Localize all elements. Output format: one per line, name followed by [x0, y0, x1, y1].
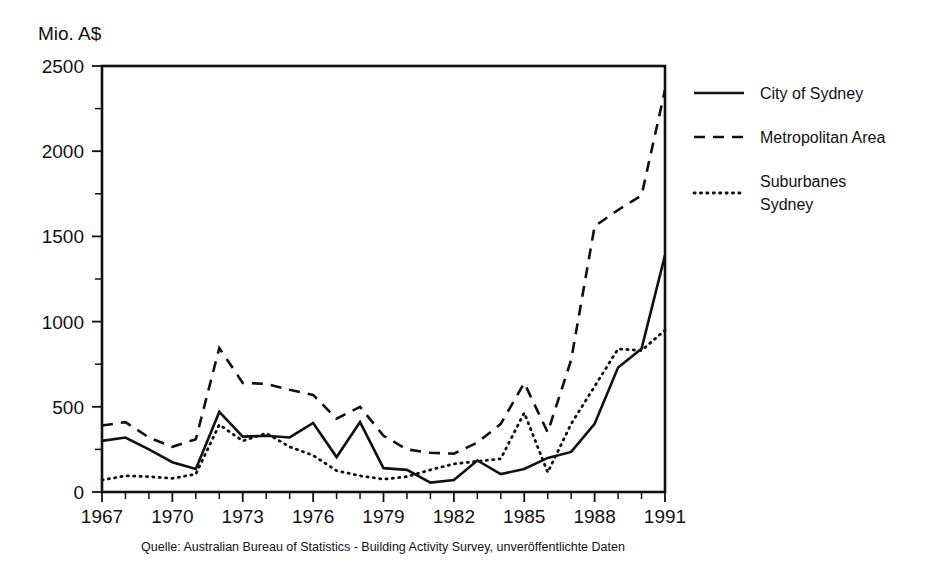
legend-label-suburbanes-sydney-line2: Sydney	[760, 196, 813, 213]
series-line-metropolitan-area	[102, 90, 665, 454]
series-line-city-of-sydney	[102, 255, 665, 482]
x-tick-label: 1979	[362, 506, 404, 527]
data-series-group	[102, 90, 665, 483]
y-tick-label: 1500	[42, 226, 84, 247]
source-note: Quelle: Australian Bureau of Statistics …	[141, 540, 625, 554]
x-tick-label: 1967	[81, 506, 123, 527]
y-tick-label: 1000	[42, 312, 84, 333]
x-tick-label: 1982	[433, 506, 475, 527]
series-line-suburbanes-sydney	[102, 330, 665, 480]
x-axis-ticks	[102, 492, 665, 502]
legend-item-city-of-sydney[interactable]: City of Sydney	[694, 85, 863, 102]
x-tick-label: 1988	[573, 506, 615, 527]
x-tick-label: 1985	[503, 506, 545, 527]
y-tick-label: 2000	[42, 141, 84, 162]
y-axis-title: Mio. A$	[38, 23, 102, 44]
legend-label-metropolitan-area: Metropolitan Area	[760, 129, 886, 146]
y-tick-label: 2500	[42, 56, 84, 77]
plot-frame	[102, 66, 665, 492]
legend-item-metropolitan-area[interactable]: Metropolitan Area	[694, 129, 886, 146]
y-axis-ticks	[92, 66, 102, 492]
legend-label-suburbanes-sydney-line1: Suburbanes	[760, 173, 846, 190]
y-axis-labels: 2500 2000 1500 1000 500 0	[42, 56, 84, 503]
legend-label-city-of-sydney: City of Sydney	[760, 85, 863, 102]
legend: City of Sydney Metropolitan Area Suburba…	[694, 85, 886, 213]
legend-item-suburbanes-sydney[interactable]: Suburbanes Sydney	[694, 173, 846, 213]
y-tick-label: 0	[73, 482, 84, 503]
x-tick-label: 1991	[644, 506, 686, 527]
x-tick-label: 1970	[151, 506, 193, 527]
x-axis-labels: 196719701973197619791982198519881991	[81, 506, 686, 527]
y-tick-label: 500	[52, 397, 84, 418]
line-chart-figure: Mio. A$ 2500 2000 1500 1000 500 0 196719…	[0, 0, 934, 573]
x-tick-label: 1973	[222, 506, 264, 527]
x-tick-label: 1976	[292, 506, 334, 527]
